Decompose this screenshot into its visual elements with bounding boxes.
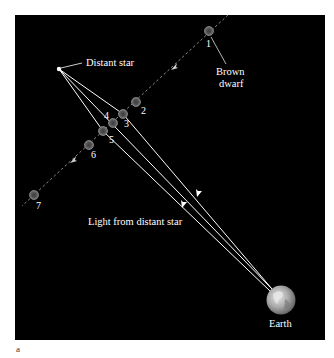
brown-dwarf-6: 6 xyxy=(85,141,97,161)
light-label: Light from distant star xyxy=(88,216,183,227)
earth-label: Earth xyxy=(269,318,292,329)
distant-star-label: Distant star xyxy=(86,57,135,68)
position-label: 7 xyxy=(36,200,41,211)
brown-dwarf-leader xyxy=(211,37,226,64)
brown-dwarf-5: 5 xyxy=(99,127,115,146)
earth xyxy=(267,286,296,315)
distant-star-leader xyxy=(61,63,82,68)
brown-dwarf-2: 2 xyxy=(132,98,147,117)
position-label: 5 xyxy=(109,134,114,145)
brown-dwarf-4: 4 xyxy=(104,110,118,128)
brown-dwarf-label-line2: dwarf xyxy=(219,78,244,89)
brown-dwarf-label-line1: Brown xyxy=(216,66,245,77)
position-label: 4 xyxy=(104,110,109,121)
distant-star xyxy=(57,67,61,71)
position-label: 1 xyxy=(206,38,211,49)
path-arrow-icon xyxy=(70,156,77,163)
brown-dwarf-1: 1 xyxy=(205,27,214,50)
ray-arrow-icon xyxy=(196,189,202,197)
position-label: 2 xyxy=(141,105,146,116)
figure-caption: a xyxy=(16,344,20,354)
brown-dwarf-7: 7 xyxy=(30,191,42,212)
position-label: 3 xyxy=(124,118,129,129)
microlensing-diagram: Distant star 1 Brown dwarf 2 3 4 5 6 7 L… xyxy=(0,0,334,358)
position-label: 6 xyxy=(91,149,96,160)
brown-dwarf-3: 3 xyxy=(119,110,130,130)
